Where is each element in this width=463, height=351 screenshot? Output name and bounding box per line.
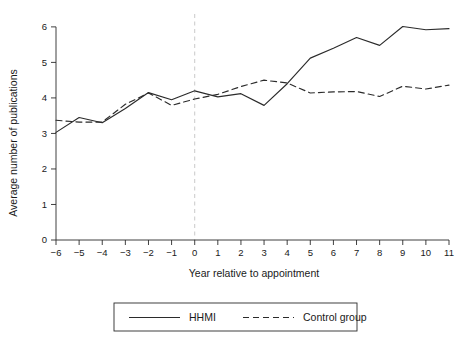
x-tick-label: 11 bbox=[444, 247, 454, 258]
x-tick-label: −2 bbox=[143, 247, 154, 258]
chart-background bbox=[0, 0, 463, 351]
x-tick-label: −6 bbox=[51, 247, 62, 258]
y-tick-label: 0 bbox=[42, 234, 47, 245]
legend-label-hhmi: HHMI bbox=[189, 311, 216, 323]
x-tick-label: 2 bbox=[238, 247, 243, 258]
y-tick-label: 1 bbox=[42, 199, 47, 210]
x-tick-label: 8 bbox=[377, 247, 382, 258]
x-tick-label: −4 bbox=[97, 247, 108, 258]
x-tick-label: 10 bbox=[421, 247, 432, 258]
x-tick-label: 6 bbox=[331, 247, 336, 258]
y-tick-label: 4 bbox=[42, 92, 47, 103]
x-tick-label: 4 bbox=[285, 247, 290, 258]
x-tick-label: −5 bbox=[74, 247, 85, 258]
x-tick-label: 0 bbox=[192, 247, 197, 258]
x-tick-label: 7 bbox=[354, 247, 359, 258]
y-axis-title: Average number of publications bbox=[7, 69, 19, 216]
x-tick-label: −1 bbox=[166, 247, 177, 258]
x-tick-label: 5 bbox=[308, 247, 313, 258]
publications-line-chart: 0123456 −6−5−4−3−2−101234567891011 Avera… bbox=[0, 0, 463, 351]
y-tick-label: 5 bbox=[42, 57, 47, 68]
x-axis-title: Year relative to appointment bbox=[189, 267, 319, 279]
y-tick-label: 6 bbox=[42, 21, 47, 32]
legend-label-control-group: Control group bbox=[303, 311, 367, 323]
x-tick-label: −3 bbox=[120, 247, 131, 258]
x-tick-label: 1 bbox=[215, 247, 220, 258]
x-tick-label: 9 bbox=[400, 247, 405, 258]
chart-legend: HHMI Control group bbox=[114, 303, 367, 331]
x-tick-label: 3 bbox=[261, 247, 266, 258]
chart-figure: 0123456 −6−5−4−3−2−101234567891011 Avera… bbox=[0, 0, 463, 351]
y-tick-label: 3 bbox=[42, 128, 47, 139]
y-tick-label: 2 bbox=[42, 163, 47, 174]
